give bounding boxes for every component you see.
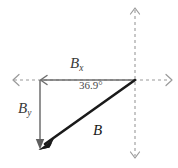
label-bx: Bx [70,56,84,73]
label-b-vector-glyph: B [93,123,102,138]
label-by-subscript: y [27,108,31,118]
label-by-base: B [18,100,27,116]
label-bx-subscript: x [79,63,83,73]
by-component-arrow [36,80,44,150]
vector-diagram: Bx By 36.9° B [0,0,178,168]
label-b-vector: B [93,123,102,138]
label-bx-base: B [70,55,79,71]
label-by: By [18,101,32,118]
vector-overarrow-icon [92,120,105,125]
label-angle: 36.9° [79,80,103,91]
